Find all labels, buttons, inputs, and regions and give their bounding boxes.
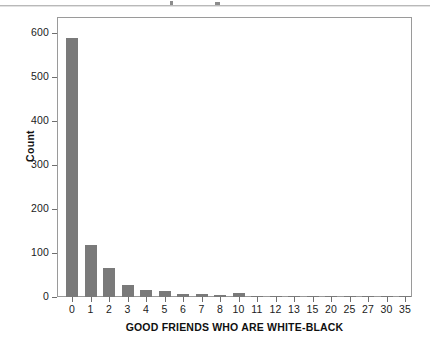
x-tick-mark	[109, 297, 110, 302]
x-tick-mark	[91, 297, 92, 302]
y-tick-label: 200	[31, 202, 49, 214]
y-tick-label: 600	[31, 26, 49, 38]
bar	[270, 296, 282, 297]
x-tick-mark	[368, 297, 369, 302]
x-axis-title: GOOD FRIENDS WHO ARE WHITE-BLACK	[57, 321, 412, 333]
bar	[381, 296, 393, 297]
x-tick-mark	[294, 297, 295, 302]
x-tick-mark	[183, 297, 184, 302]
bar	[140, 290, 152, 297]
y-tick-label: 300	[31, 158, 49, 170]
y-tick-mark	[52, 33, 57, 34]
x-tick-mark	[350, 297, 351, 302]
bar	[233, 293, 245, 297]
y-tick-mark	[52, 209, 57, 210]
bar	[399, 296, 411, 297]
plot-frame	[57, 17, 412, 297]
bar	[66, 38, 78, 297]
y-tick-label: 400	[31, 114, 49, 126]
bar	[325, 296, 337, 297]
bar	[196, 294, 208, 297]
x-tick-mark	[405, 297, 406, 302]
x-tick-mark	[387, 297, 388, 302]
y-tick-label: 0	[43, 290, 49, 302]
y-tick-label: 500	[31, 70, 49, 82]
y-tick-mark	[52, 77, 57, 78]
bar	[177, 294, 189, 297]
bar	[85, 245, 97, 297]
bar-chart-figure: Count 0100200300400500600 01234567810111…	[0, 0, 430, 343]
x-tick-mark	[165, 297, 166, 302]
bar	[159, 291, 171, 297]
x-tick-mark	[128, 297, 129, 302]
bar	[103, 268, 115, 297]
bar	[214, 295, 226, 297]
x-tick-mark	[276, 297, 277, 302]
bar	[362, 296, 374, 297]
x-tick-mark	[72, 297, 73, 302]
x-tick-mark	[313, 297, 314, 302]
bar	[307, 296, 319, 297]
y-tick-mark	[52, 165, 57, 166]
x-tick-mark	[202, 297, 203, 302]
x-tick-mark	[257, 297, 258, 302]
bar	[344, 296, 356, 297]
x-tick-mark	[331, 297, 332, 302]
x-tick-label: 35	[392, 303, 418, 315]
y-tick-label: 100	[31, 246, 49, 258]
y-tick-mark	[52, 121, 57, 122]
y-tick-mark	[52, 253, 57, 254]
y-tick-mark	[52, 297, 57, 298]
bar	[251, 296, 263, 297]
x-tick-mark	[146, 297, 147, 302]
x-tick-mark	[239, 297, 240, 302]
x-tick-mark	[220, 297, 221, 302]
bar	[122, 285, 134, 297]
bar	[288, 296, 300, 297]
